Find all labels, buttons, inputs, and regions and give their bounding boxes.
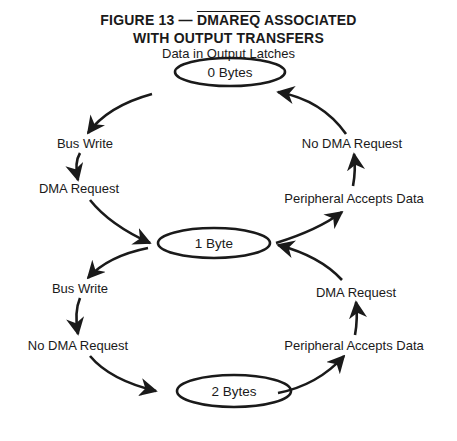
- label-peripheral-accepts-data-bottom: Peripheral Accepts Data: [284, 338, 424, 353]
- arrow-icon: [76, 298, 80, 334]
- arrow-icon: [355, 302, 357, 335]
- label-dma-request-bottom: DMA Request: [316, 285, 397, 300]
- arrow-icon: [76, 153, 80, 180]
- arrow-icon: [278, 356, 344, 393]
- arrow-icon: [278, 92, 346, 134]
- arrow-icon: [90, 200, 150, 243]
- label-dma-request-top: DMA Request: [39, 181, 120, 196]
- arrow-1-to-2-left: [76, 248, 156, 391]
- arrow-icon: [88, 94, 152, 133]
- arrow-icon: [353, 154, 355, 186]
- arrow-2-to-1-right: [278, 245, 357, 393]
- arrow-icon: [278, 245, 342, 280]
- arrow-icon: [90, 356, 156, 391]
- state-label-1-byte: 1 Byte: [195, 236, 233, 251]
- arrow-1-to-0-right: [276, 92, 355, 243]
- label-bus-write-bottom: Bus Write: [52, 281, 108, 296]
- state-node-2-bytes: 2 Bytes: [177, 375, 291, 407]
- arrow-0-to-1-left: [76, 94, 152, 243]
- state-node-1-byte: 1 Byte: [158, 228, 270, 258]
- arrow-icon: [88, 248, 148, 278]
- arrow-icon: [276, 212, 342, 243]
- label-peripheral-accepts-data-top: Peripheral Accepts Data: [284, 191, 424, 206]
- label-no-dma-request-bottom: No DMA Request: [28, 338, 129, 353]
- state-node-0-bytes: 0 Bytes: [175, 58, 285, 86]
- label-no-dma-request-top: No DMA Request: [302, 136, 403, 151]
- label-bus-write-top: Bus Write: [57, 136, 113, 151]
- state-label-0-bytes: 0 Bytes: [207, 65, 252, 80]
- state-diagram: 0 Bytes 1 Byte 2 Bytes Bus Write DMA Req…: [0, 0, 457, 441]
- state-label-2-bytes: 2 Bytes: [211, 384, 256, 399]
